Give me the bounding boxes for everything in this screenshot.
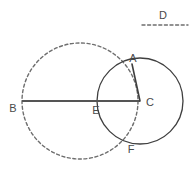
point-label-e: E (92, 104, 99, 116)
legend-label-d: D (159, 9, 167, 21)
point-label-b: B (9, 102, 16, 114)
diagram-canvas: A B C D E F (0, 0, 194, 174)
point-label-a: A (129, 52, 137, 64)
point-label-f: F (128, 143, 135, 155)
geometry-diagram: A B C D E F (0, 0, 194, 174)
segment-ca (132, 64, 140, 101)
point-label-c: C (146, 96, 154, 108)
